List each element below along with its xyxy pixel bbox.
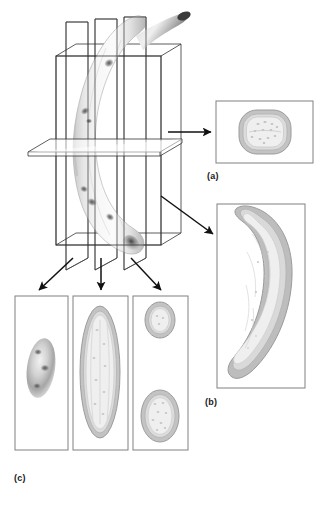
panel-c-label: (c) [14,474,26,483]
pulp [148,398,172,435]
panel-b-label: (b) [205,398,217,407]
panel-c [15,296,188,450]
panel-a [216,101,313,163]
figure-container: (a) (b) (c) [0,0,324,506]
panel-c-middle [73,296,128,450]
pulp [151,309,169,332]
panel-c-left [15,296,68,450]
horizontal-cut-plane [28,139,182,156]
panel-a-content [239,110,291,154]
figure-svg [0,0,324,506]
lower-section [141,390,179,442]
upper-section [145,302,175,338]
panel-c-middle-content [80,306,120,438]
panel-a-label: (a) [207,172,219,181]
panel-b [217,204,305,388]
panel-c-right [133,296,188,450]
